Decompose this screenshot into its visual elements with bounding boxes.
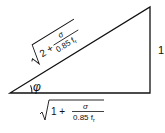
hypotenuse-root-prefix: 2 + xyxy=(38,42,56,59)
hypotenuse-label: 2 + σ 0.85 fr xyxy=(25,19,86,69)
vertical-side-label: 1 xyxy=(158,44,164,56)
base-denominator: 0.85 fr xyxy=(73,113,95,123)
angle-arc xyxy=(31,85,32,93)
right-triangle xyxy=(10,7,150,93)
base-label: 1 + σ 0.85 fr xyxy=(40,100,104,123)
angle-label: φ xyxy=(33,80,41,94)
hypotenuse-denominator: 0.85 fr xyxy=(54,35,78,55)
base-root-prefix: 1 + xyxy=(51,106,65,117)
triangle-diagram: φ 1 2 + σ 0.85 fr 1 + σ 0.85 fr xyxy=(0,0,165,133)
base-numerator: σ xyxy=(83,102,89,111)
